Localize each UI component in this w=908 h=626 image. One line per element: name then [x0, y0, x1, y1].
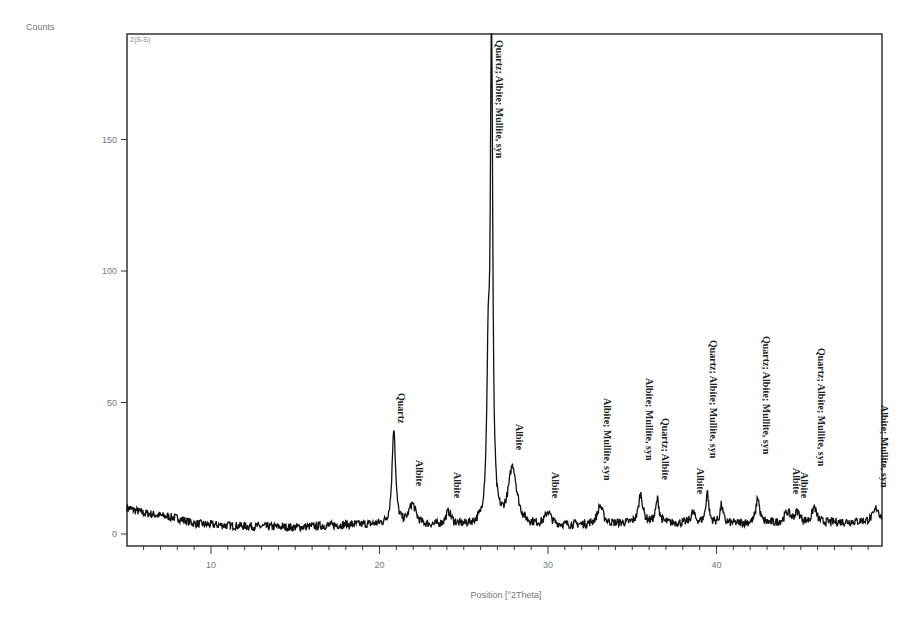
peak-phase-label: Albite	[452, 472, 463, 499]
peak-phase-label: Albite; Mullite, syn	[602, 398, 613, 481]
y-tick-label: 150	[102, 135, 117, 145]
peak-phase-label: Quartz; Albite; Mullite, syn	[761, 336, 772, 455]
x-tick-label: 10	[206, 560, 216, 570]
peak-phase-label: Quartz; Albite; Mullite, syn	[494, 40, 505, 159]
peak-phase-label: Albite	[414, 460, 425, 487]
peak-phase-label: Albite; Mullite, syn	[644, 378, 655, 461]
x-tick-label: 40	[711, 560, 721, 570]
peak-phase-label: Quartz; Albite; Mullite, syn	[816, 348, 827, 467]
peak-phase-label: Albite; Mullite, syn	[879, 405, 890, 488]
y-tick-label: 0	[112, 529, 117, 539]
x-tick-label: 30	[543, 560, 553, 570]
peak-phase-label: Quartz	[396, 393, 407, 424]
peak-phase-label: Albite	[550, 472, 561, 499]
x-axis-ticks: 10203040	[144, 546, 869, 570]
peak-phase-label: Quartz; Albite	[660, 418, 671, 480]
phase-peak-labels: QuartzAlbiteAlbiteQuartz; Albite; Mullit…	[396, 40, 890, 499]
peak-phase-label: Albite	[799, 472, 810, 499]
x-tick-label: 20	[374, 560, 384, 570]
peak-phase-label: Albite	[514, 424, 525, 451]
y-tick-label: 50	[107, 398, 117, 408]
peak-phase-label: Albite	[695, 468, 706, 495]
y-tick-label: 100	[102, 266, 117, 276]
y-axis-ticks: 050100150	[102, 135, 127, 540]
peak-phase-label: Quartz; Albite; Mullite, syn	[708, 340, 719, 459]
x-axis-title: Position [°2Theta]	[0, 590, 908, 600]
scan-name-label: 2(S-S)	[130, 36, 150, 44]
xrd-diffractogram-plot: 050100150 10203040 QuartzAlbiteAlbiteQua…	[0, 0, 908, 626]
